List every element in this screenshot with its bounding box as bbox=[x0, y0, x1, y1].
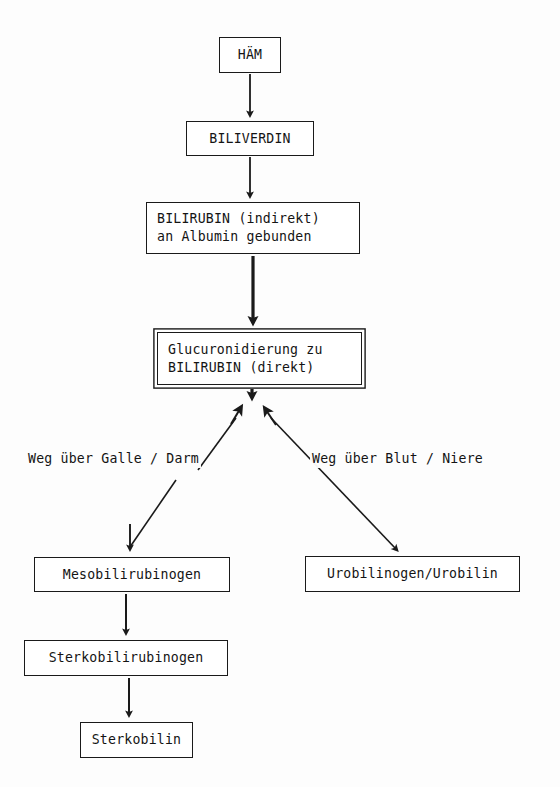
connector-galle-darm-to-mesobilirubinogen bbox=[130, 480, 176, 547]
node-glucuronidierung-line-0: Glucuronidierung zu bbox=[158, 341, 361, 359]
node-biliverdin[interactable]: BILIVERDIN bbox=[186, 121, 314, 156]
node-sterkobilirubinogen[interactable]: Sterkobilirubinogen bbox=[24, 640, 228, 676]
node-glucuronidierung[interactable]: Glucuronidierung zu BILIRUBIN (direkt) bbox=[157, 332, 362, 385]
flowchart-canvas: HÄM BILIVERDIN BILIRUBIN (indirekt) an A… bbox=[0, 0, 560, 787]
node-mesobilirubinogen-line-0: Mesobilirubinogen bbox=[63, 566, 201, 584]
node-sterkobilin[interactable]: Sterkobilin bbox=[80, 722, 193, 758]
node-haem[interactable]: HÄM bbox=[219, 37, 281, 73]
node-biliverdin-line-0: BILIVERDIN bbox=[209, 130, 290, 148]
edge-label-weg-galle-darm: Weg über Galle / Darm bbox=[26, 450, 201, 468]
connector-blut-niere-to-urobilinogen bbox=[271, 418, 396, 549]
node-glucuronidierung-line-1: BILIRUBIN (direkt) bbox=[158, 359, 361, 377]
node-urobilinogen[interactable]: Urobilinogen/Urobilin bbox=[305, 556, 520, 592]
node-haem-line-0: HÄM bbox=[238, 46, 262, 64]
connector-galle-darm-upper bbox=[198, 418, 236, 470]
node-mesobilirubinogen[interactable]: Mesobilirubinogen bbox=[34, 557, 230, 592]
edge-label-weg-blut-niere: Weg über Blut / Niere bbox=[310, 450, 485, 468]
node-bilirubin-indirekt-line-0: BILIRUBIN (indirekt) bbox=[147, 210, 359, 228]
node-sterkobilin-line-0: Sterkobilin bbox=[92, 731, 182, 749]
node-urobilinogen-line-0: Urobilinogen/Urobilin bbox=[327, 565, 498, 583]
node-sterkobilirubinogen-line-0: Sterkobilirubinogen bbox=[49, 649, 204, 667]
node-bilirubin-indirekt-line-1: an Albumin gebunden bbox=[147, 228, 359, 246]
node-bilirubin-indirekt[interactable]: BILIRUBIN (indirekt) an Albumin gebunden bbox=[146, 202, 360, 254]
